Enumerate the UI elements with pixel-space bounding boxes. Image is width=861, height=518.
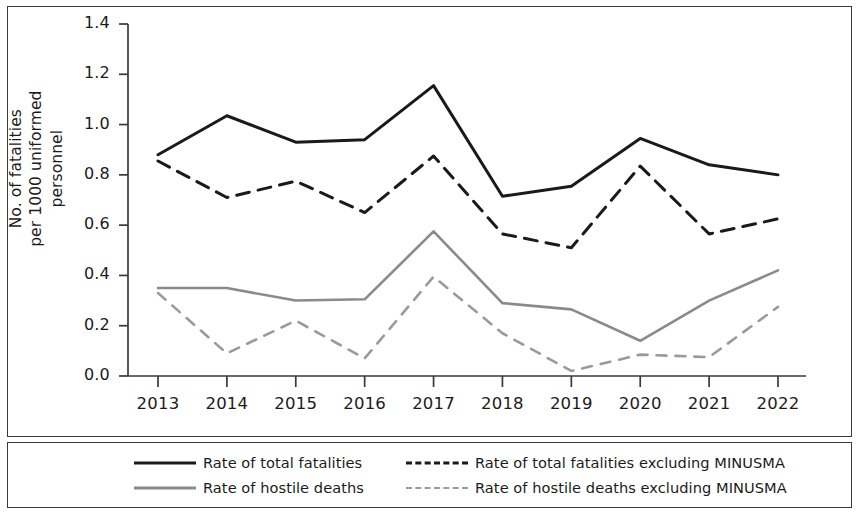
x-tick-label: 2017 xyxy=(399,394,469,413)
x-tick-label: 2014 xyxy=(192,394,262,413)
x-tick-label: 2018 xyxy=(467,394,537,413)
y-tick-label: 0.0 xyxy=(64,365,110,384)
legend-swatch-icon xyxy=(134,456,196,470)
legend-swatch-icon xyxy=(406,456,468,470)
x-tick-label: 2013 xyxy=(123,394,193,413)
y-tick-label: 0.4 xyxy=(64,264,110,283)
legend-label: Rate of hostile deaths xyxy=(203,479,364,496)
series-line-3 xyxy=(158,277,778,371)
y-tick-label: 0.2 xyxy=(64,315,110,334)
legend-label: Rate of total fatalities xyxy=(203,454,362,471)
legend-item[interactable]: Rate of hostile deaths excluding MINUSMA xyxy=(406,479,787,496)
legend-label: Rate of total fatalities excluding MINUS… xyxy=(475,454,785,471)
legend-box: Rate of total fatalitiesRate of total fa… xyxy=(7,442,852,508)
x-tick-label: 2016 xyxy=(330,394,400,413)
x-tick-label: 2020 xyxy=(605,394,675,413)
y-tick-label: 1.4 xyxy=(64,13,110,32)
x-tick-label: 2022 xyxy=(743,394,813,413)
x-tick-label: 2021 xyxy=(674,394,744,413)
y-tick-label: 0.6 xyxy=(64,214,110,233)
y-tick-label: 1.2 xyxy=(64,63,110,82)
x-tick-label: 2019 xyxy=(536,394,606,413)
legend-item[interactable]: Rate of total fatalities xyxy=(134,454,362,471)
plot-canvas xyxy=(0,0,861,518)
series-line-0 xyxy=(158,86,778,197)
series-line-1 xyxy=(158,156,778,248)
legend-swatch-icon xyxy=(134,481,196,495)
chart-figure: No. of fatalities per 1000 uniformed per… xyxy=(0,0,861,518)
legend-swatch-icon xyxy=(406,481,468,495)
series-line-2 xyxy=(158,231,778,340)
y-tick-label: 0.8 xyxy=(64,164,110,183)
x-tick-label: 2015 xyxy=(261,394,331,413)
legend-item[interactable]: Rate of hostile deaths xyxy=(134,479,364,496)
legend-item[interactable]: Rate of total fatalities excluding MINUS… xyxy=(406,454,785,471)
y-tick-label: 1.0 xyxy=(64,114,110,133)
legend-label: Rate of hostile deaths excluding MINUSMA xyxy=(475,479,787,496)
